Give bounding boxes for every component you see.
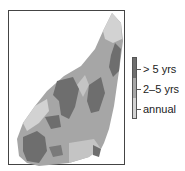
legend-tick <box>137 109 141 110</box>
legend-label-2-5: 2–5 yrs <box>143 84 179 95</box>
legend-label-over-5: > 5 yrs <box>143 64 176 75</box>
map-graphic <box>9 11 126 166</box>
legend-label-annual: annual <box>143 104 176 115</box>
annual-zone-north <box>103 13 122 43</box>
map-frame <box>8 10 125 165</box>
legend-swatch-over-5 <box>133 58 136 78</box>
legend-swatch-annual <box>133 98 136 118</box>
legend-tick <box>137 89 141 90</box>
legend-swatch-2-5 <box>133 78 136 98</box>
legend-tick <box>137 69 141 70</box>
